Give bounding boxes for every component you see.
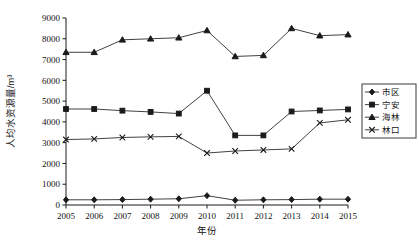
y-tick-label: 7000 — [42, 55, 61, 65]
marker-square — [346, 107, 351, 112]
y-tick-label: 8000 — [42, 34, 61, 44]
marker-diamond — [148, 196, 153, 202]
chart-figure: 0100020003000400050006000700080009000200… — [0, 0, 419, 240]
marker-diamond — [120, 197, 125, 203]
x-tick-label: 2014 — [311, 211, 330, 221]
x-tick-label: 2010 — [198, 211, 217, 221]
y-tick-label: 5000 — [42, 96, 61, 106]
y-tick-label: 6000 — [42, 76, 61, 86]
marker-square — [370, 102, 375, 107]
y-tick-label: 9000 — [42, 13, 61, 23]
marker-square — [176, 111, 181, 116]
marker-square — [205, 88, 210, 93]
legend-label: 市区 — [382, 87, 400, 97]
marker-diamond — [63, 197, 68, 203]
series-林口 — [63, 117, 351, 156]
marker-square — [64, 107, 69, 112]
y-tick-label: 1000 — [42, 179, 61, 189]
line-chart: 0100020003000400050006000700080009000200… — [0, 0, 419, 240]
y-tick-label: 0 — [56, 200, 61, 210]
series-line — [66, 120, 348, 153]
x-tick-label: 2007 — [113, 211, 132, 221]
legend: 市区宁安海林林口 — [362, 84, 416, 138]
marker-diamond — [289, 197, 294, 203]
series-海林 — [63, 25, 351, 58]
y-tick-label: 2000 — [42, 159, 61, 169]
x-tick-label: 2011 — [226, 211, 244, 221]
marker-square — [148, 110, 153, 115]
x-tick-label: 2008 — [142, 211, 161, 221]
legend-label: 宁安 — [382, 100, 400, 110]
marker-diamond — [233, 197, 238, 203]
x-tick-label: 2012 — [254, 211, 272, 221]
series-line — [66, 91, 348, 136]
x-tick-label: 2006 — [85, 211, 104, 221]
x-tick-label: 2015 — [339, 211, 358, 221]
legend-label: 林口 — [382, 125, 400, 135]
marker-triangle — [204, 27, 210, 32]
x-tick-label: 2005 — [57, 211, 76, 221]
marker-square — [261, 133, 266, 138]
series-市区 — [63, 193, 350, 204]
marker-diamond — [345, 196, 350, 202]
marker-square — [92, 107, 97, 112]
marker-square — [289, 109, 294, 114]
marker-triangle — [345, 32, 351, 37]
y-tick-label: 4000 — [42, 117, 61, 127]
marker-diamond — [317, 196, 322, 202]
marker-diamond — [204, 193, 209, 199]
legend-label: 海林 — [382, 112, 400, 122]
marker-triangle — [289, 25, 295, 30]
x-axis-title: 年份 — [197, 225, 217, 236]
marker-diamond — [176, 196, 181, 202]
marker-square — [120, 108, 125, 113]
y-axis-title: 人均水资源量/m³ — [5, 75, 16, 149]
series-宁安 — [64, 88, 351, 137]
y-tick-label: 3000 — [42, 138, 61, 148]
marker-square — [233, 133, 238, 138]
marker-diamond — [261, 197, 266, 203]
marker-square — [317, 108, 322, 113]
x-tick-label: 2013 — [283, 211, 302, 221]
marker-diamond — [92, 197, 97, 203]
x-tick-label: 2009 — [170, 211, 189, 221]
